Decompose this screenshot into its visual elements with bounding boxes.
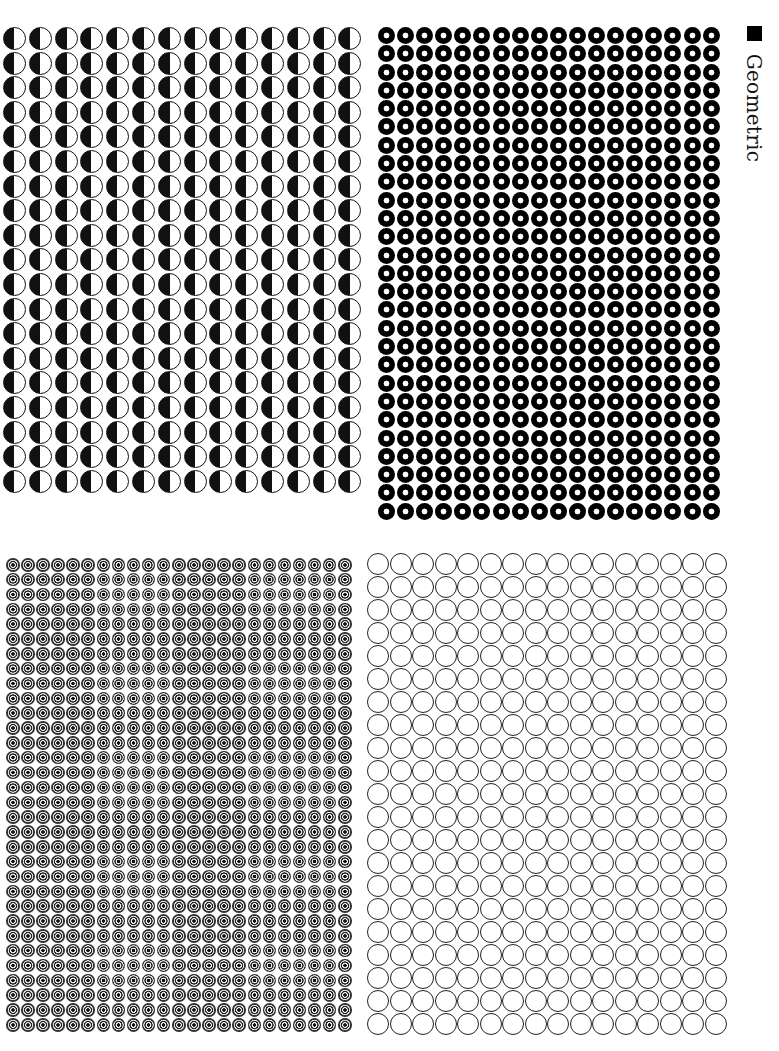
concentric-target-icon (308, 706, 322, 720)
outlined-circle-icon (502, 875, 524, 897)
concentric-target-icon (323, 781, 337, 795)
outlined-circle-icon (592, 921, 614, 943)
concentric-target-icon (97, 885, 111, 899)
outlined-circle-icon (570, 622, 592, 644)
black-donut-icon (473, 393, 490, 410)
black-donut-icon (473, 484, 490, 501)
half-filled-circle-icon (338, 273, 361, 296)
concentric-target-icon (66, 706, 80, 720)
concentric-target-icon (97, 870, 111, 884)
concentric-target-icon (293, 751, 307, 765)
concentric-target-icon (263, 885, 277, 899)
concentric-target-icon (248, 721, 262, 735)
half-filled-circle-icon (29, 199, 52, 222)
concentric-target-icon (97, 736, 111, 750)
concentric-target-icon (217, 736, 231, 750)
half-filled-circle-icon (132, 470, 155, 493)
outlined-circle-icon (637, 921, 659, 943)
concentric-target-icon (308, 588, 322, 602)
concentric-target-icon (323, 632, 337, 646)
outlined-circle-icon (660, 737, 682, 759)
black-donut-icon (435, 484, 452, 501)
concentric-target-icon (187, 959, 201, 973)
concentric-target-icon (293, 588, 307, 602)
black-donut-icon (531, 27, 548, 44)
concentric-target-icon (36, 855, 50, 869)
half-filled-circle-icon (106, 27, 129, 50)
concentric-target-icon (97, 617, 111, 631)
black-donut-icon (626, 228, 643, 245)
concentric-target-icon (263, 840, 277, 854)
concentric-target-icon (338, 573, 352, 587)
concentric-target-icon (172, 677, 186, 691)
black-donut-icon (512, 137, 529, 154)
concentric-target-icon (127, 736, 141, 750)
black-donut-icon (607, 411, 624, 428)
concentric-target-icon (21, 870, 35, 884)
black-donut-icon (607, 393, 624, 410)
concentric-target-icon (172, 929, 186, 943)
concentric-target-icon (232, 1018, 246, 1032)
outlined-circle-icon (705, 1013, 727, 1035)
outlined-circle-icon (480, 829, 502, 851)
outlined-circle-icon (502, 668, 524, 690)
outlined-circle-icon (547, 783, 569, 805)
black-donut-icon (684, 283, 701, 300)
outlined-circle-icon (705, 668, 727, 690)
half-filled-circle-icon (313, 298, 336, 321)
black-donut-icon (397, 210, 414, 227)
half-filled-circle-icon (287, 175, 310, 198)
half-filled-circle-icon (184, 125, 207, 148)
concentric-target-icon (217, 588, 231, 602)
black-donut-icon (531, 64, 548, 81)
concentric-target-icon (6, 796, 20, 810)
concentric-target-icon (338, 959, 352, 973)
black-donut-icon (703, 484, 720, 501)
concentric-target-icon (217, 840, 231, 854)
half-filled-circle-icon (106, 421, 129, 444)
outlined-circle-icon (682, 691, 704, 713)
concentric-target-icon (81, 692, 95, 706)
concentric-target-icon (308, 1003, 322, 1017)
black-donut-icon (531, 503, 548, 520)
concentric-target-icon (187, 692, 201, 706)
half-circle-pattern-panel (3, 27, 364, 494)
concentric-target-icon (263, 855, 277, 869)
concentric-target-icon (21, 810, 35, 824)
concentric-target-icon (323, 617, 337, 631)
concentric-target-icon (217, 617, 231, 631)
concentric-target-icon (338, 736, 352, 750)
outlined-circle-icon (367, 760, 389, 782)
outlined-circle-icon (682, 898, 704, 920)
concentric-target-icon (308, 677, 322, 691)
outlined-circle-icon (525, 599, 547, 621)
concentric-target-icon (66, 603, 80, 617)
outlined-circle-icon (502, 622, 524, 644)
outlined-circle-icon (592, 714, 614, 736)
outlined-circle-icon (525, 921, 547, 943)
black-donut-icon (703, 283, 720, 300)
black-donut-icon (473, 301, 490, 318)
outlined-circle-icon (367, 852, 389, 874)
concentric-target-icon (248, 885, 262, 899)
black-donut-icon (664, 210, 681, 227)
black-donut-icon (493, 320, 510, 337)
concentric-target-icon (338, 988, 352, 1002)
outlined-circle-icon (682, 714, 704, 736)
outlined-circle-icon (705, 622, 727, 644)
concentric-target-icon (21, 855, 35, 869)
black-donut-icon (645, 247, 662, 264)
concentric-target-icon (293, 736, 307, 750)
half-filled-circle-icon (132, 150, 155, 173)
black-donut-icon (397, 448, 414, 465)
half-filled-circle-icon (209, 175, 232, 198)
black-donut-icon (626, 338, 643, 355)
concentric-target-icon (142, 573, 156, 587)
concentric-target-icon (217, 647, 231, 661)
half-filled-circle-icon (158, 101, 181, 124)
concentric-target-icon (6, 1018, 20, 1032)
concentric-target-icon (51, 974, 65, 988)
concentric-target-icon (36, 706, 50, 720)
concentric-target-icon (232, 751, 246, 765)
outlined-circle-icon (547, 599, 569, 621)
